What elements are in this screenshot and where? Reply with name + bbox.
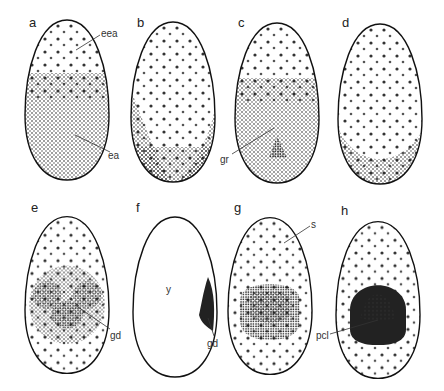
panel-f: f y gd (133, 200, 218, 377)
panel-label-e: e (31, 200, 38, 215)
panel-label-b: b (137, 15, 144, 30)
embryo-stages-figure: a eea ea b c (0, 0, 444, 391)
panel-label-h: h (341, 203, 348, 218)
annotation-ea: ea (108, 150, 120, 161)
panel-d: d (335, 15, 425, 189)
annotation-s: s (311, 219, 316, 230)
panel-label-f: f (136, 200, 140, 215)
panel-a: a eea ea (22, 15, 120, 183)
annotation-eea: eea (101, 28, 118, 39)
annotation-gd: gd (110, 330, 121, 341)
annotation-gd-f: gd (207, 338, 218, 349)
annotation-y: y (166, 284, 171, 295)
panel-label-a: a (29, 15, 37, 30)
panel-c: c gr (220, 15, 322, 188)
panel-e: e gd (22, 200, 121, 378)
panel-h: h pcl (316, 203, 423, 383)
annotation-pcl: pcl (316, 330, 329, 341)
annotation-gr: gr (220, 154, 230, 165)
panel-g: g s (225, 200, 316, 379)
panel-label-g: g (234, 200, 241, 215)
panel-label-c: c (238, 15, 245, 30)
panel-label-d: d (342, 15, 349, 30)
panel-b: b (128, 15, 218, 187)
